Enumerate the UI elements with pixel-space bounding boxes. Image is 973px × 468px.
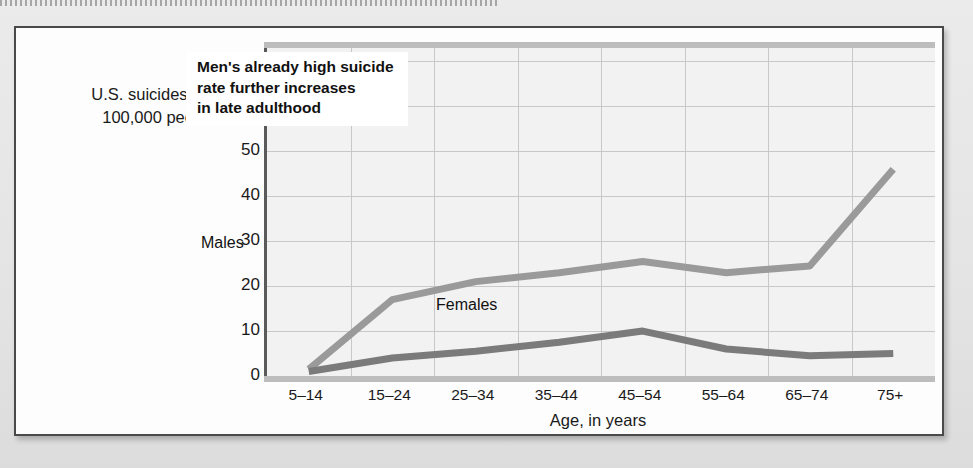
x-axis-tick-labels: 5–1415–2425–3435–4445–5455–6465–7475+ <box>264 386 932 410</box>
annotation-callout: Men's already high suicide rate further … <box>186 52 408 126</box>
x-axis-tick-label: 35–44 <box>535 386 578 404</box>
plot-bottom-band <box>264 376 935 382</box>
y-axis-tick-label: 10 <box>216 320 260 340</box>
annotation-line-3: in late adulthood <box>197 98 394 119</box>
annotation-line-2: rate further increases <box>197 78 394 99</box>
x-axis-tick-label: 15–24 <box>368 386 411 404</box>
y-axis-tick-label: 40 <box>216 185 260 205</box>
series-label-males: Males <box>201 234 244 252</box>
series-label-females: Females <box>436 296 497 314</box>
x-axis-tick-label: 65–74 <box>785 386 828 404</box>
series-line-females <box>309 331 894 371</box>
x-axis-tick-label: 25–34 <box>451 386 494 404</box>
y-axis-tick-label: 0 <box>216 365 260 385</box>
y-axis-tick-label: 20 <box>216 275 260 295</box>
line-chart: U.S. suicides per 100,000 people 0102030… <box>16 28 942 434</box>
x-axis-tick-label: 55–64 <box>702 386 745 404</box>
x-axis-tick-label: 45–54 <box>618 386 661 404</box>
annotation-line-1: Men's already high suicide <box>197 57 394 78</box>
x-axis-title: Age, in years <box>264 411 932 430</box>
x-axis-tick-label: 75+ <box>877 386 903 404</box>
y-axis-tick-label: 50 <box>216 140 260 160</box>
figure-card: U.S. suicides per 100,000 people 0102030… <box>14 26 944 436</box>
x-axis-tick-label: 5–14 <box>289 386 323 404</box>
page-top-dotted-rule <box>0 0 500 6</box>
